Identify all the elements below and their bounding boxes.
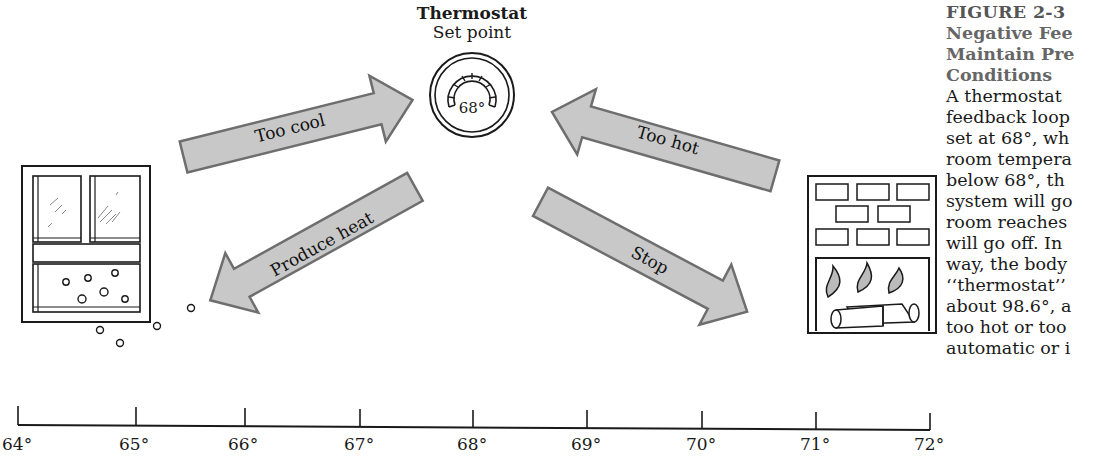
caption-body-line: way, the body [946, 254, 1099, 275]
caption-body-line: system will go [946, 191, 1099, 212]
caption-body-line: below 68°, th [946, 170, 1099, 191]
tick-label-65: 65° [119, 434, 149, 454]
temperature-scale [18, 406, 930, 430]
figure-label: FIGURE 2-3 [946, 2, 1099, 23]
caption-body-line: set at 68°, wh [946, 128, 1099, 149]
thermostat-subtitle: Set point [412, 22, 532, 42]
figure-title-line: Maintain Pre [946, 44, 1099, 65]
caption-body-line: about 98.6°, a [946, 296, 1099, 317]
tick-label-67: 67° [344, 434, 374, 454]
caption-body-line: A thermostat [946, 86, 1099, 107]
caption-body-line: room reaches [946, 212, 1099, 233]
tick-label-71: 71° [800, 434, 830, 454]
thermostat-title: Thermostat [412, 3, 532, 23]
figure-title-line: Negative Fee [946, 23, 1099, 44]
caption-body-line: will go off. In [946, 233, 1099, 254]
figure-caption: FIGURE 2-3 Negative Fee Maintain Pre Con… [946, 2, 1099, 359]
caption-body-line: automatic or i [946, 338, 1099, 359]
tick-label-64: 64° [2, 434, 32, 454]
caption-body-line: feedback loop [946, 107, 1099, 128]
caption-body-line: room tempera [946, 149, 1099, 170]
caption-body-line: too hot or too [946, 317, 1099, 338]
tick-label-69: 69° [571, 434, 601, 454]
thermostat-dial-icon [430, 53, 514, 137]
fireplace-icon [808, 176, 936, 333]
tick-label-66: 66° [228, 434, 258, 454]
window-icon [22, 166, 195, 347]
tick-label-68: 68° [457, 434, 487, 454]
tick-label-70: 70° [686, 434, 716, 454]
thermostat-feedback-diagram: Too cool Produce heat Too hot Stop [0, 0, 1099, 476]
tick-label-72: 72° [914, 434, 944, 454]
caption-body-line: ‘‘thermostat’’ [946, 275, 1099, 296]
figure-title-line: Conditions [946, 65, 1099, 86]
thermostat-dial-value: 68° [450, 99, 494, 117]
